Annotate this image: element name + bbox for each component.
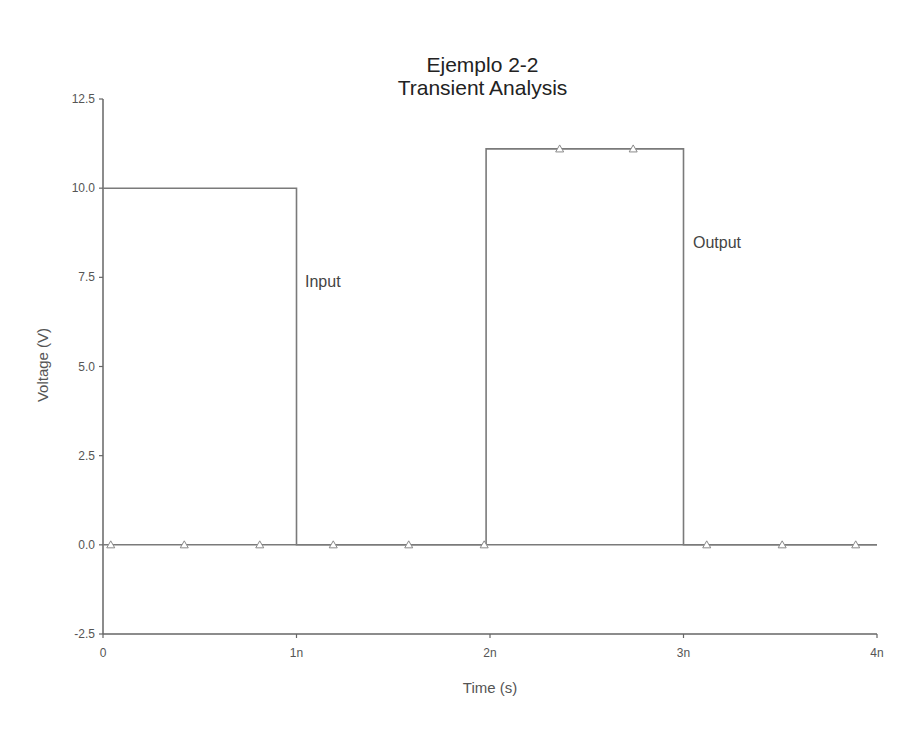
y-tick-label: 7.5 [78,270,95,284]
y-tick-label: 2.5 [78,449,95,463]
y-tick-label: 5.0 [78,360,95,374]
output-series-line [103,149,877,545]
x-tick-label: 2n [483,646,496,660]
axis-ticks: -2.50.02.55.07.510.012.501n2n3n4n [72,92,884,660]
y-tick-label: 0.0 [78,538,95,552]
chart-plot-area: -2.50.02.55.07.510.012.501n2n3n4n Input … [0,0,915,735]
x-axis-label: Time (s) [463,679,517,696]
output-series-label: Output [693,234,742,251]
input-series-label: Input [305,273,341,290]
y-tick-label: 12.5 [72,92,96,106]
series-lines [103,149,877,545]
x-tick-label: 0 [100,646,107,660]
y-tick-label: 10.0 [72,181,96,195]
x-tick-label: 3n [677,646,690,660]
axes [103,99,877,634]
input-series-line [103,188,877,545]
x-tick-label: 4n [870,646,883,660]
y-tick-label: -2.5 [74,627,95,641]
series-markers [107,145,860,548]
y-axis-label: Voltage (V) [34,328,51,402]
x-tick-label: 1n [290,646,303,660]
